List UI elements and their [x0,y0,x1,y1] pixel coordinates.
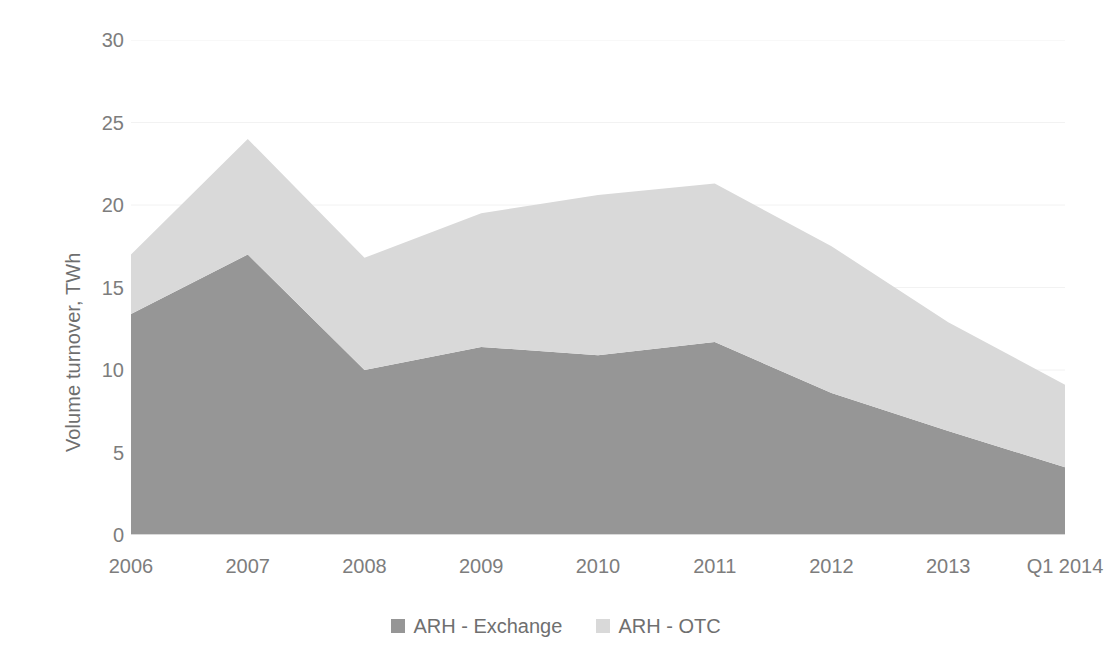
x-tick-2009: 2009 [459,556,504,576]
x-tick-2012: 2012 [809,556,854,576]
y-tick-20: 20 [78,195,124,215]
y-tick-0: 0 [78,525,124,545]
chart-canvas [131,40,1065,535]
legend-item-arh-otc[interactable]: ARH - OTC [596,616,720,636]
legend-label: ARH - Exchange [413,616,562,636]
x-tick-2013: 2013 [926,556,971,576]
y-tick-5: 5 [78,443,124,463]
legend-item-arh-exchange[interactable]: ARH - Exchange [391,616,562,636]
y-tick-30: 30 [78,30,124,50]
y-tick-15: 15 [78,278,124,298]
x-axis-tick-labels: 20062007200820092010201120122013Q1 2014 [0,556,1112,586]
plot-area [131,40,1065,535]
legend-swatch-icon [391,619,405,633]
x-tick-q1-2014: Q1 2014 [1027,556,1104,576]
x-tick-2010: 2010 [576,556,621,576]
legend-swatch-icon [596,619,610,633]
area-chart: Volume turnover, TWh 302520151050 200620… [0,0,1112,664]
legend-label: ARH - OTC [618,616,720,636]
x-tick-2011: 2011 [693,556,736,576]
chart-legend: ARH - ExchangeARH - OTC [0,616,1112,636]
y-tick-25: 25 [78,113,124,133]
x-tick-2007: 2007 [226,556,271,576]
x-tick-2006: 2006 [109,556,154,576]
y-tick-10: 10 [78,360,124,380]
x-tick-2008: 2008 [342,556,387,576]
